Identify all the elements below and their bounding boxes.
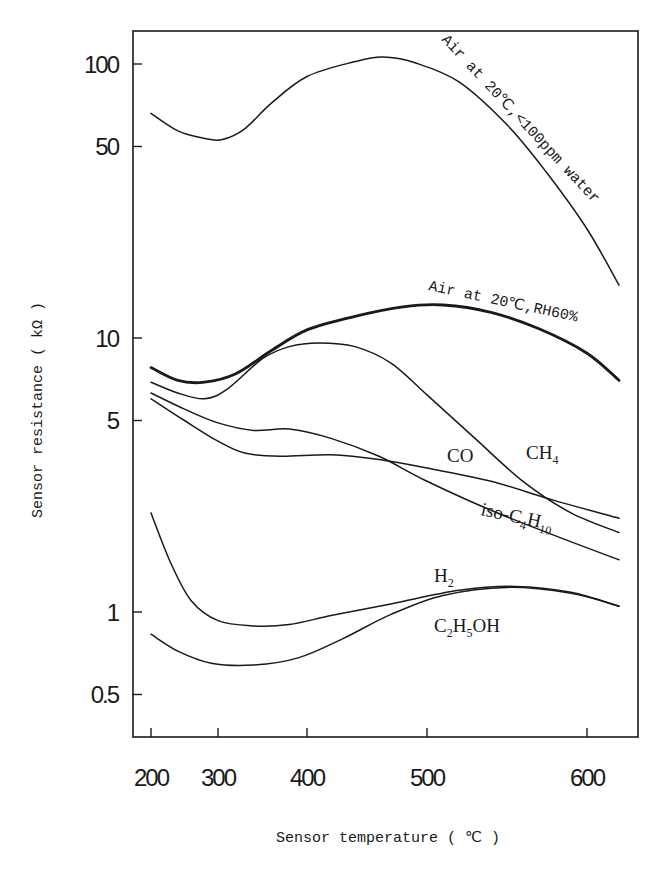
label-ch4-main: CH — [526, 442, 553, 463]
series-line-ch4 — [151, 343, 619, 533]
label-iso-main: iso-C — [479, 498, 524, 527]
x-tick-label: 500 — [410, 764, 446, 791]
x-tick-label: 400 — [290, 764, 326, 791]
y-tick-label: 1 — [107, 599, 120, 626]
label-h2: H2 — [434, 565, 454, 590]
label-ch4-sub: 4 — [552, 453, 558, 467]
y-tick-label: 0.5 — [91, 681, 120, 708]
x-tick-label: 600 — [570, 764, 606, 791]
x-tick-label: 300 — [201, 764, 237, 791]
label-rh60: Air at 20℃,RH60% — [427, 278, 580, 326]
y-tick-label: 10 — [95, 325, 119, 352]
label-c2h5oh-c: C — [434, 615, 447, 636]
label-h2-sub: 2 — [448, 576, 454, 590]
y-tick-label: 5 — [107, 407, 120, 434]
series-line-c2h5oh — [151, 587, 619, 665]
plot-frame — [133, 31, 638, 737]
label-h2-main: H — [434, 565, 448, 586]
x-tick-label: 200 — [134, 764, 170, 791]
label-iso-c4h10: iso-C4H10 — [478, 498, 555, 538]
chart: 0.5151050100 200300400500600 Air at 20℃,… — [0, 0, 664, 870]
y-tick-label: 100 — [84, 51, 120, 78]
y-tick-label: 50 — [95, 133, 119, 160]
label-c2h5oh: C2H5OH — [434, 615, 500, 640]
label-co: CO — [447, 445, 473, 466]
y-axis-title: Sensor resistance ( kΩ ) — [30, 302, 47, 518]
label-ch4: CH4 — [526, 442, 558, 467]
label-c2h5oh-oh: OH — [472, 615, 500, 636]
series-line-air-at-20-100ppm-water — [151, 57, 619, 285]
label-dry-air: Air at 20℃,<100ppm water — [437, 32, 602, 207]
label-iso-sub2: 10 — [538, 522, 553, 538]
label-c2h5oh-h: H — [453, 615, 467, 636]
x-axis-title: Sensor temperature ( ℃ ) — [276, 830, 500, 847]
